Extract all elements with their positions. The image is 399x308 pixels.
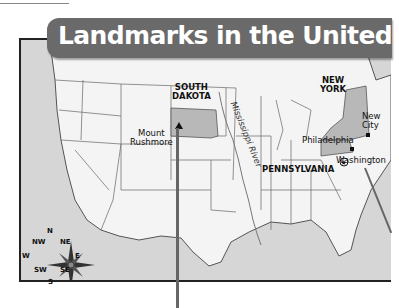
label-new-york-city: New City	[362, 112, 381, 130]
label-new-york-city-line2: City	[362, 121, 381, 130]
compass-rose	[47, 241, 95, 280]
philadelphia-marker	[350, 147, 354, 151]
label-washington: Washington	[336, 156, 386, 165]
label-pennsylvania: PENNSYLVANIA	[262, 165, 334, 174]
new-york-city-marker	[366, 133, 370, 137]
label-south-dakota: SOUTH DAKOTA	[172, 83, 211, 101]
label-mount-rushmore-line2: Rushmore	[130, 138, 173, 147]
map-title: Landmarks in the United States	[58, 21, 399, 50]
label-south-dakota-line2: DAKOTA	[172, 92, 211, 101]
compass-sw: SW	[34, 266, 47, 274]
label-new-york-line2: YORK	[320, 85, 346, 94]
compass-w: W	[22, 252, 30, 260]
compass-ne: NE	[60, 238, 71, 246]
label-new-york: NEW YORK	[320, 76, 346, 94]
label-philadelphia: Philadelphia	[302, 136, 354, 145]
label-mount-rushmore: Mount Rushmore	[130, 129, 173, 147]
compass-nw: NW	[32, 238, 46, 246]
compass-se: SE	[60, 266, 70, 274]
compass-s: S	[48, 278, 53, 286]
compass-e: E	[75, 252, 80, 260]
pointer-line-mount-rushmore	[176, 128, 179, 308]
compass-n: N	[47, 227, 53, 235]
top-rule	[0, 3, 69, 4]
gulf-of-mexico	[221, 238, 326, 280]
